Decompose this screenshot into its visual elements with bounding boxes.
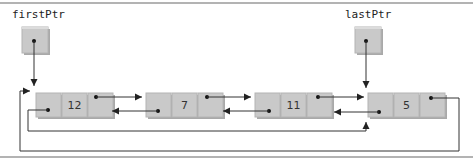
last-pointer: lastPtr	[345, 8, 392, 55]
first-pointer-label: firstPtr	[12, 8, 65, 21]
first-pointer: firstPtr	[12, 8, 65, 55]
node-value: 11	[287, 99, 301, 112]
node-value: 12	[68, 99, 82, 112]
node-value: 5	[403, 99, 410, 112]
linked-list-diagram: firstPtr lastPtr 12 7 11	[0, 0, 473, 163]
list-node: 5	[368, 93, 447, 119]
last-pointer-label: lastPtr	[345, 8, 392, 21]
node-value: 7	[181, 99, 188, 112]
